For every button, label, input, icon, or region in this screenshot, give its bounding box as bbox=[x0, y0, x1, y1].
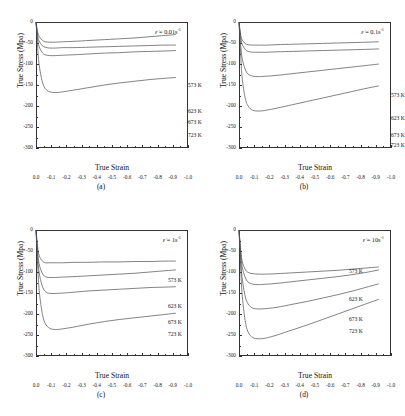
x-tick-label: -0.1 bbox=[250, 175, 258, 180]
x-tick-label: -0.8 bbox=[153, 175, 161, 180]
plot-area-b: 0-50-100-150-200-250-3000.0-0.1-0.2-0.3-… bbox=[239, 22, 391, 148]
series-label-723-k: 723 K bbox=[188, 132, 202, 138]
y-tick-label: -100 bbox=[222, 269, 236, 274]
x-tick-label: -0.9 bbox=[372, 175, 380, 180]
y-tick-label: -300 bbox=[222, 145, 236, 150]
strain-rate-exponent: -1 bbox=[380, 235, 384, 240]
x-tick-label: -0.6 bbox=[123, 175, 131, 180]
series-label-573-k: 573 K bbox=[391, 92, 405, 98]
x-tick-label: -0.2 bbox=[265, 175, 273, 180]
curve-673-k bbox=[239, 230, 379, 285]
strain-rate-equals: = bbox=[165, 236, 172, 243]
x-tick-label: -0.5 bbox=[108, 383, 116, 388]
x-tick-label: -0.7 bbox=[341, 383, 349, 388]
y-tick-label: -200 bbox=[222, 103, 236, 108]
y-tick-label: -200 bbox=[19, 311, 33, 316]
x-tick-label: -0.5 bbox=[311, 383, 319, 388]
y-tick-label: -300 bbox=[19, 353, 33, 358]
x-tick-label: -0.2 bbox=[265, 383, 273, 388]
y-tick-label: 0 bbox=[222, 19, 236, 24]
x-tick-label: -1.0 bbox=[184, 175, 192, 180]
y-tick-label: 0 bbox=[19, 227, 33, 232]
x-tick-label: -0.4 bbox=[93, 175, 101, 180]
x-tick-label: -1.0 bbox=[387, 175, 395, 180]
series-label-673-k: 673 K bbox=[188, 119, 202, 125]
x-tick-label: -0.1 bbox=[47, 175, 55, 180]
x-axis-title: True Strain bbox=[36, 163, 188, 172]
x-tick-label: -0.6 bbox=[326, 175, 334, 180]
x-tick-label: 0.0 bbox=[236, 175, 243, 180]
x-tick-label: -0.3 bbox=[77, 383, 85, 388]
x-tick-label: 0.0 bbox=[33, 383, 40, 388]
x-tick-label: 0.0 bbox=[236, 383, 243, 388]
y-tick-label: -50 bbox=[222, 40, 236, 45]
curve-723-k bbox=[36, 230, 176, 263]
y-tick-label: -250 bbox=[222, 332, 236, 337]
y-tick-label: -50 bbox=[222, 248, 236, 253]
y-tick-label: -200 bbox=[19, 103, 33, 108]
panel-c: True Stress (Mpa)0-50-100-150-200-250-30… bbox=[0, 208, 202, 416]
y-tick bbox=[239, 148, 242, 149]
series-label-573-k: 573 K bbox=[168, 277, 182, 283]
curve-group bbox=[36, 230, 188, 356]
x-axis-title: True Strain bbox=[36, 371, 188, 380]
series-label-723-k: 723 K bbox=[349, 328, 363, 334]
y-tick-label: -50 bbox=[19, 248, 33, 253]
strain-rate-annotation: ε̇ = 1s-1 bbox=[163, 235, 181, 243]
series-label-723-k: 723 K bbox=[391, 142, 405, 148]
y-tick-label: -250 bbox=[222, 124, 236, 129]
panel-caption-a: (a) bbox=[0, 182, 202, 191]
plot-area-c: 0-50-100-150-200-250-3000.0-0.1-0.2-0.3-… bbox=[36, 230, 188, 356]
y-tick-label: -150 bbox=[222, 82, 236, 87]
x-tick-label: -0.4 bbox=[296, 175, 304, 180]
y-tick-label: -150 bbox=[19, 82, 33, 87]
series-label-723-k: 723 K bbox=[168, 331, 182, 337]
curve-673-k bbox=[239, 22, 379, 52]
strain-rate-annotation: ε̇ = 10s-1 bbox=[363, 235, 384, 243]
x-tick-label: -0.7 bbox=[138, 383, 146, 388]
y-tick-label: -250 bbox=[19, 332, 33, 337]
x-tick-label: -0.3 bbox=[280, 383, 288, 388]
x-tick-label: -0.7 bbox=[341, 175, 349, 180]
y-tick-label: 0 bbox=[222, 227, 236, 232]
strain-rate-value: 0.01s bbox=[164, 28, 177, 35]
x-tick-label: -1.0 bbox=[184, 383, 192, 388]
strain-rate-annotation: ε̇ = 0.1s-1 bbox=[361, 27, 384, 35]
x-tick-label: -0.8 bbox=[356, 175, 364, 180]
strain-rate-equals: = bbox=[365, 236, 372, 243]
y-tick bbox=[239, 356, 242, 357]
strain-rate-exponent: -1 bbox=[177, 27, 181, 32]
panel-caption-b: (b) bbox=[203, 182, 405, 191]
x-tick-label: -0.1 bbox=[250, 383, 258, 388]
curve-573-k bbox=[36, 230, 176, 330]
x-tick-label: -0.6 bbox=[326, 383, 334, 388]
series-label-623-k: 623 K bbox=[349, 296, 363, 302]
series-label-623-k: 623 K bbox=[188, 108, 202, 114]
series-label-623-k: 623 K bbox=[391, 115, 405, 121]
x-tick-label: -0.2 bbox=[62, 175, 70, 180]
y-tick-label: -300 bbox=[19, 145, 33, 150]
x-tick-label: 0.0 bbox=[33, 175, 40, 180]
panel-b: True Stress (Mpa)0-50-100-150-200-250-30… bbox=[203, 0, 405, 208]
x-tick-label: -0.9 bbox=[169, 175, 177, 180]
panel-caption-c: (c) bbox=[0, 390, 202, 399]
y-tick-label: -150 bbox=[19, 290, 33, 295]
x-tick-label: -0.9 bbox=[169, 383, 177, 388]
strain-rate-exponent: -1 bbox=[177, 235, 181, 240]
series-label-673-k: 673 K bbox=[349, 316, 363, 322]
y-tick-label: -300 bbox=[222, 353, 236, 358]
x-tick-label: -0.5 bbox=[108, 175, 116, 180]
series-label-573-k: 573 K bbox=[349, 268, 363, 274]
x-tick-label: -0.5 bbox=[311, 175, 319, 180]
x-tick-label: -0.2 bbox=[62, 383, 70, 388]
x-tick bbox=[188, 145, 189, 148]
x-tick bbox=[188, 353, 189, 356]
panel-d: True Stress (Mpa)0-50-100-150-200-250-30… bbox=[203, 208, 405, 416]
y-tick-label: -150 bbox=[222, 290, 236, 295]
x-tick-label: -0.4 bbox=[296, 383, 304, 388]
strain-rate-annotation: ε̇ = 0.01s-1 bbox=[155, 27, 181, 35]
plot-area-d: 0-50-100-150-200-250-3000.0-0.1-0.2-0.3-… bbox=[239, 230, 391, 356]
curve-group bbox=[36, 22, 188, 148]
panel-caption-d: (d) bbox=[203, 390, 405, 399]
series-label-673-k: 673 K bbox=[168, 319, 182, 325]
